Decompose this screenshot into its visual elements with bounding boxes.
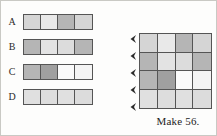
strip-cell [24,40,41,54]
strip-cells [23,89,93,105]
strip-cells [23,14,93,30]
strip-cell [58,65,75,79]
figure-canvas: ABCD Make 56. [0,0,217,136]
color-grid [139,33,212,109]
strip-row-label: A [1,13,23,31]
grid-cell [140,53,158,72]
grid-cell [158,71,176,90]
grid-cell [140,90,158,109]
grid-cell [176,71,194,90]
grid-cell [158,53,176,72]
strip-cell [41,15,58,29]
strip-cell [75,65,92,79]
strip-row-label: B [1,38,23,56]
grid-cell [140,34,158,53]
strip-list: ABCD [1,1,113,136]
grid-cell [140,71,158,90]
grid-cell [158,90,176,109]
caption-text: Make 56. [141,115,215,127]
strip-cells [23,64,93,80]
grid-panel [129,33,215,111]
grid-cell [193,71,211,90]
strip-cell [24,65,41,79]
strip-cell [24,90,41,104]
strip-cell [41,90,58,104]
grid-cell [193,53,211,72]
strip-cell [41,40,58,54]
grid-cell [193,34,211,53]
strip-cell [75,15,92,29]
grid-cell [193,90,211,109]
strip-cell [41,65,58,79]
strip-row-label: D [1,88,23,106]
strip-row: D [1,88,93,106]
strip-cell [75,90,92,104]
strip-row: B [1,38,93,56]
left-chevron-arrow-icon [129,86,136,93]
strip-cell [58,15,75,29]
arrow-marker-list [129,35,139,109]
grid-cell [176,53,194,72]
strip-cells [23,39,93,55]
strip-row: A [1,13,93,31]
left-chevron-arrow-icon [129,103,136,110]
strip-cell [58,90,75,104]
strip-cell [58,40,75,54]
strip-cell [24,15,41,29]
grid-cell [158,34,176,53]
strip-cell [75,40,92,54]
left-chevron-arrow-icon [129,35,136,42]
strip-row: C [1,63,93,81]
grid-cell [176,34,194,53]
left-chevron-arrow-icon [129,52,136,59]
left-chevron-arrow-icon [129,69,136,76]
strip-row-label: C [1,63,23,81]
grid-cell [176,90,194,109]
